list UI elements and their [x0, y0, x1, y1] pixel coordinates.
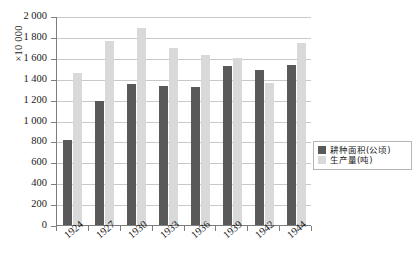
bar-1933-series0 — [159, 86, 168, 225]
legend-item-1: 生产量(吨) — [318, 156, 407, 165]
y-axis-tick-label: 800 — [0, 135, 47, 146]
y-axis-tick-label: 400 — [0, 177, 47, 188]
bar-1927-series1 — [105, 41, 114, 225]
x-axis-tick — [56, 226, 57, 231]
x-axis-tick — [184, 226, 185, 231]
legend-swatch-icon — [318, 156, 326, 164]
y-axis-tick-label: 1 600 — [0, 52, 47, 63]
legend-label: 耕种面积(公顷) — [330, 146, 391, 155]
legend-swatch-icon — [318, 146, 326, 154]
x-axis-tick — [120, 226, 121, 231]
bar-chart-figure: ×10 000 02004006008001 0001 2001 4001 60… — [0, 0, 420, 272]
bar-1942-series0 — [255, 70, 264, 225]
y-axis-unit-label: ×10 000 — [13, 12, 24, 76]
y-axis-tick-label: 200 — [0, 198, 47, 209]
bar-1924-series0 — [63, 140, 72, 225]
bar-1927-series0 — [95, 101, 104, 225]
x-axis-tick — [279, 226, 280, 231]
x-axis-tick — [152, 226, 153, 231]
x-axis-tick — [311, 226, 312, 231]
y-axis-tick-label: 2 000 — [0, 10, 47, 21]
bar-1936-series1 — [201, 55, 210, 225]
plot-area — [56, 17, 311, 226]
y-axis-tick-label: 1 000 — [0, 115, 47, 126]
bar-1936-series0 — [191, 87, 200, 225]
bar-1930-series0 — [127, 84, 136, 225]
bar-1933-series1 — [169, 48, 178, 225]
bar-1939-series1 — [233, 58, 242, 225]
chart-legend: 耕种面积(公顷)生产量(吨) — [313, 141, 412, 170]
legend-item-0: 耕种面积(公顷) — [318, 146, 407, 155]
x-axis-tick — [247, 226, 248, 231]
bar-1939-series0 — [223, 66, 232, 225]
bar-1944-series0 — [287, 65, 296, 225]
y-axis-tick-label: 0 — [0, 219, 47, 230]
x-axis-tick — [88, 226, 89, 231]
x-axis-tick — [215, 226, 216, 231]
y-axis-tick-label: 1 800 — [0, 31, 47, 42]
bar-1944-series1 — [297, 43, 306, 225]
bar-1924-series1 — [73, 73, 82, 225]
y-axis-tick-label: 1 200 — [0, 94, 47, 105]
bar-1942-series1 — [265, 83, 274, 225]
legend-label: 生产量(吨) — [330, 156, 373, 165]
bars-layer — [57, 17, 311, 225]
y-axis-tick-label: 600 — [0, 156, 47, 167]
y-axis-tick-label: 1 400 — [0, 73, 47, 84]
bar-1930-series1 — [137, 28, 146, 226]
